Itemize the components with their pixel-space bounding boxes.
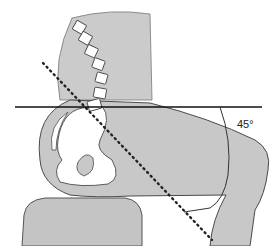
- seat: [22, 198, 142, 246]
- angle-label: 45°: [237, 118, 254, 130]
- torso: [58, 12, 152, 100]
- pelvis-diagram: [0, 0, 276, 246]
